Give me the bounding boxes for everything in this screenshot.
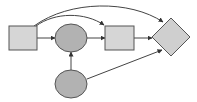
edges (34, 6, 163, 79)
edge-ellipse-bottom-to-diamond (87, 50, 162, 79)
node-rect-left (9, 26, 37, 50)
node-rect-middle (105, 26, 134, 50)
flow-diagram (0, 0, 197, 102)
node-diamond-right (152, 18, 190, 56)
node-ellipse-top (55, 24, 87, 52)
node-ellipse-bottom (55, 70, 87, 98)
nodes (9, 18, 190, 98)
edge-curve-rect-left-to-diamond (34, 6, 163, 26)
